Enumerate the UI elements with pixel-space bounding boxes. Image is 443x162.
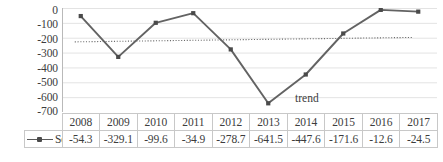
data-point-marker [416, 10, 420, 14]
table-header-cell: 2009 [100, 114, 138, 131]
table-header-cell: 2014 [287, 114, 325, 131]
table-header-cell: 2016 [362, 114, 400, 131]
y-tick-label: 0 [6, 5, 58, 17]
y-tick-label: -400 [6, 63, 58, 75]
plot-area [62, 8, 437, 112]
table-value-cell: -99.6 [137, 131, 175, 148]
line-chart: 0 -100 -200 -300 -400 -500 -600 -700 tre… [0, 0, 443, 162]
table-header-cell: 2012 [212, 114, 250, 131]
legend-cell: Series1 [25, 131, 63, 148]
data-point-marker [379, 8, 383, 12]
table-value-cell: -34.9 [175, 131, 213, 148]
y-tick-label: -300 [6, 48, 58, 60]
data-point-marker [229, 47, 233, 51]
y-tick-label: -500 [6, 77, 58, 89]
table-header-cell: 2011 [175, 114, 213, 131]
trend-annotation-label: trend [295, 92, 319, 104]
table-header-cell: 2013 [250, 114, 288, 131]
series-markers [79, 8, 421, 105]
data-point-marker [191, 11, 195, 15]
table-corner-cell [25, 114, 63, 131]
table-value-cell: -54.3 [62, 131, 100, 148]
y-tick-label: -200 [6, 34, 58, 46]
gridlines [62, 9, 437, 113]
table-header-row: 2008 2009 2010 2011 2012 2013 2014 2015 … [25, 114, 438, 131]
table-header-cell: 2010 [137, 114, 175, 131]
legend-label: Series1 [55, 131, 62, 147]
line-marker-icon [27, 135, 53, 144]
table-value-cell: -329.1 [100, 131, 138, 148]
table-value-cell: -24.5 [400, 131, 438, 148]
series-line [81, 10, 419, 103]
table-value-cell: -278.7 [212, 131, 250, 148]
data-point-marker [116, 55, 120, 59]
table-row: Series1 -54.3 -329.1 -99.6 -34.9 -278.7 … [25, 131, 438, 148]
data-point-marker [79, 14, 83, 18]
table-value-cell: -12.6 [362, 131, 400, 148]
y-tick-label: -100 [6, 19, 58, 31]
plot-svg [62, 8, 437, 112]
table-header-cell: 2015 [325, 114, 363, 131]
data-point-marker [304, 72, 308, 76]
table-value-cell: -447.6 [287, 131, 325, 148]
data-table: 2008 2009 2010 2011 2012 2013 2014 2015 … [24, 113, 438, 148]
table-header-cell: 2008 [62, 114, 100, 131]
table-value-cell: -641.5 [250, 131, 288, 148]
data-point-marker [266, 101, 270, 105]
y-tick-label: -600 [6, 92, 58, 104]
y-axis: 0 -100 -200 -300 -400 -500 -600 -700 [0, 0, 58, 120]
table-header-cell: 2017 [400, 114, 438, 131]
data-point-marker [154, 21, 158, 25]
data-point-marker [341, 31, 345, 35]
table-value-cell: -171.6 [325, 131, 363, 148]
